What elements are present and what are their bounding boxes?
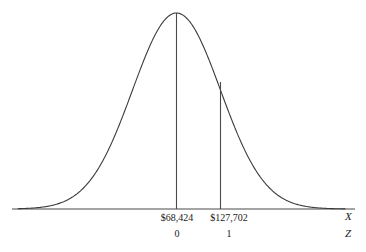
normal-curve-path [18, 13, 345, 209]
x-axis-tick-label-sigma: $127,702 [198, 212, 260, 223]
z-axis-name-label: Z [345, 227, 351, 239]
z-axis-tick-label-sigma: 1 [198, 228, 260, 239]
x-axis-name-label: X [345, 210, 352, 222]
normal-distribution-figure: $68,424 $127,702 0 1 X Z [0, 0, 366, 252]
